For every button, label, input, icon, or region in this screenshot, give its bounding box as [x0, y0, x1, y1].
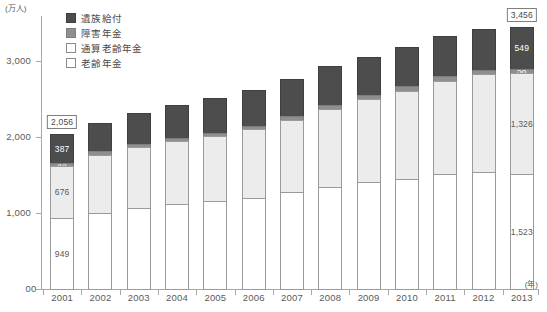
bar-segment-value-label: 676	[55, 188, 70, 197]
x-axis-origin-label: 0	[31, 283, 36, 294]
bar-segment-survivor[interactable]	[127, 113, 151, 143]
bar-segment-value-label: 58	[517, 69, 527, 73]
bar-segment-oldage[interactable]: 949	[50, 218, 74, 290]
bar-total-callout: 3,456	[507, 8, 537, 22]
x-axis-labels: 2001200220032004200520062007200820092010…	[41, 292, 539, 308]
stacked-bar-chart: 遺族給付 障害年金 通算老齢年金 老齢年金 (万人) 01,0002,0003,…	[0, 0, 547, 312]
x-axis-label: 2006	[243, 292, 265, 303]
bar-segment-aggregate[interactable]	[395, 91, 419, 179]
bar-segment-aggregate[interactable]: 1,326	[510, 73, 534, 174]
bar-segment-oldage[interactable]	[88, 213, 112, 290]
bar-group[interactable]	[280, 79, 304, 290]
bar-segment-disability[interactable]	[318, 105, 342, 109]
bar-segment-disability[interactable]	[127, 144, 151, 147]
x-axis-label: 2008	[319, 292, 341, 303]
bar-segment-survivor[interactable]	[433, 36, 457, 76]
bar-segment-oldage[interactable]	[127, 208, 151, 290]
bar-group[interactable]: 94967644387	[50, 134, 74, 290]
plot-area: 01,0002,0003,000 949676443872,0561,5231,…	[41, 16, 539, 290]
bar-segment-disability[interactable]	[242, 126, 266, 130]
bar-group[interactable]	[318, 66, 342, 290]
bar-segment-value-label: 44	[57, 163, 67, 166]
bar-segment-oldage[interactable]	[280, 192, 304, 290]
bar-segment-disability[interactable]	[433, 76, 457, 80]
bar-segment-value-label: 549	[514, 44, 529, 53]
bar-segment-aggregate[interactable]	[472, 74, 496, 172]
bar-segment-aggregate[interactable]: 676	[50, 166, 74, 217]
bar-segment-aggregate[interactable]	[357, 99, 381, 182]
bar-segment-value-label: 387	[55, 145, 70, 154]
bar-segment-value-label: 949	[55, 250, 70, 259]
bar-segment-survivor[interactable]	[280, 79, 304, 116]
bar-segment-oldage[interactable]	[203, 201, 227, 290]
bar-segment-disability[interactable]	[357, 95, 381, 99]
x-axis-label: 2001	[51, 292, 73, 303]
x-axis-unit-label: (年)	[525, 278, 538, 289]
bar-segment-aggregate[interactable]	[127, 147, 151, 208]
bar-segment-disability[interactable]: 44	[50, 163, 74, 166]
bar-group[interactable]: 1,5231,32658549	[510, 27, 534, 290]
bar-segment-oldage[interactable]	[472, 172, 496, 290]
bar-segment-survivor[interactable]	[318, 66, 342, 104]
y-axis-tick-label: 2,000	[6, 131, 31, 142]
x-axis-label: 2002	[89, 292, 111, 303]
x-axis-label: 2012	[473, 292, 495, 303]
bar-segment-aggregate[interactable]	[433, 81, 457, 175]
bar-group[interactable]	[433, 36, 457, 290]
bar-group[interactable]	[357, 57, 381, 290]
bar-segment-disability[interactable]: 58	[510, 69, 534, 73]
bar-segment-oldage[interactable]	[357, 182, 381, 290]
bar-group[interactable]	[203, 98, 227, 290]
x-axis-label: 2010	[396, 292, 418, 303]
bar-group[interactable]	[472, 29, 496, 290]
bar-segment-oldage[interactable]	[395, 179, 419, 291]
bar-group[interactable]	[395, 47, 419, 290]
bar-segment-oldage[interactable]	[433, 174, 457, 290]
bar-segment-value-label: 1,326	[511, 120, 533, 129]
bar-segment-disability[interactable]	[280, 116, 304, 120]
bar-segment-disability[interactable]	[395, 86, 419, 90]
bar-segment-disability[interactable]	[472, 70, 496, 74]
y-axis-tick-label: 1,000	[6, 207, 31, 218]
bar-segment-survivor[interactable]	[165, 105, 189, 138]
bar-series-container: 949676443872,0561,5231,326585493,456	[41, 16, 539, 290]
bar-segment-disability[interactable]	[88, 151, 112, 154]
bar-segment-survivor[interactable]	[357, 57, 381, 95]
bar-group[interactable]	[88, 123, 112, 290]
bar-segment-aggregate[interactable]	[88, 155, 112, 213]
x-axis-label: 2009	[358, 292, 380, 303]
bar-segment-survivor[interactable]: 549	[510, 27, 534, 69]
y-axis-unit-label: (万人)	[5, 2, 26, 13]
bar-segment-aggregate[interactable]	[242, 129, 266, 198]
bar-segment-aggregate[interactable]	[203, 136, 227, 201]
bar-segment-survivor[interactable]: 387	[50, 134, 74, 163]
bar-segment-oldage[interactable]	[165, 204, 189, 290]
bar-segment-aggregate[interactable]	[318, 109, 342, 187]
x-axis-label: 2007	[281, 292, 303, 303]
bar-segment-oldage[interactable]: 1,523	[510, 174, 534, 290]
bar-group[interactable]	[127, 113, 151, 290]
bar-group[interactable]	[165, 105, 189, 290]
x-axis-label: 2003	[128, 292, 150, 303]
bar-segment-aggregate[interactable]	[165, 141, 189, 204]
bar-segment-aggregate[interactable]	[280, 120, 304, 192]
bar-segment-disability[interactable]	[203, 133, 227, 137]
bar-segment-oldage[interactable]	[318, 187, 342, 290]
x-axis-label: 2004	[166, 292, 188, 303]
bar-segment-survivor[interactable]	[472, 29, 496, 70]
bar-segment-disability[interactable]	[165, 138, 189, 142]
bar-segment-survivor[interactable]	[395, 47, 419, 87]
bar-segment-survivor[interactable]	[203, 98, 227, 132]
bar-segment-survivor[interactable]	[88, 123, 112, 152]
bar-segment-value-label: 1,523	[511, 228, 533, 237]
y-axis-tick-label: 3,000	[6, 55, 31, 66]
bar-total-callout: 2,056	[47, 115, 77, 129]
bar-group[interactable]	[242, 90, 266, 290]
x-axis-label: 2005	[204, 292, 226, 303]
x-axis-label: 2011	[435, 292, 456, 303]
bar-segment-oldage[interactable]	[242, 198, 266, 290]
bar-segment-survivor[interactable]	[242, 90, 266, 126]
x-axis-label: 2013	[511, 292, 533, 303]
